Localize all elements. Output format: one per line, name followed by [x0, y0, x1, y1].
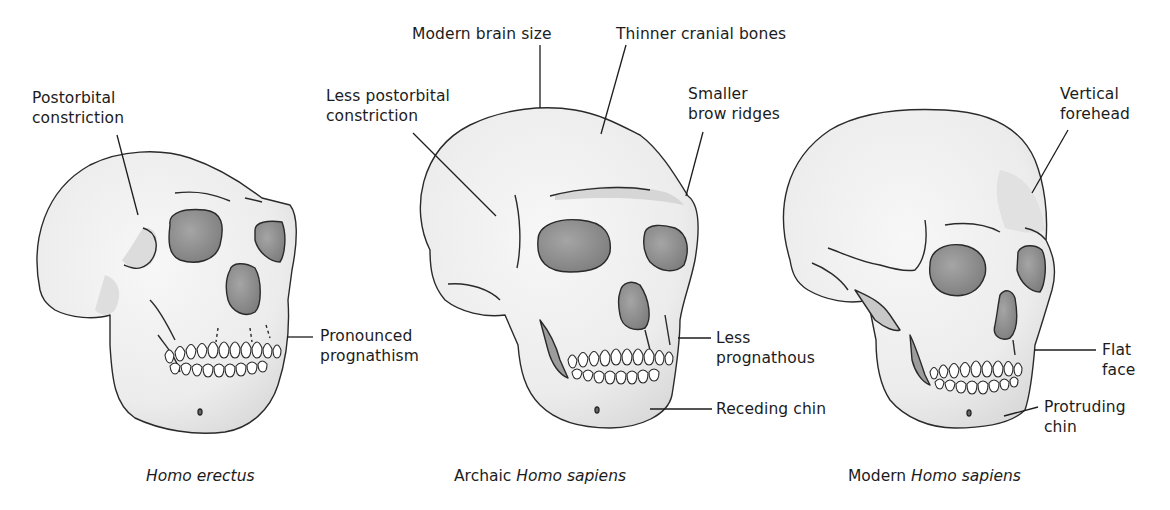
skull-archaic-homo-sapiens: [420, 108, 698, 428]
label-flat-face: Flat face: [1102, 340, 1135, 380]
label-less-prognathous: Less prognathous: [716, 328, 815, 368]
label-smaller-brow-ridges: Smaller brow ridges: [688, 84, 780, 124]
label-postorbital-constriction: Postorbital constriction: [32, 88, 124, 128]
skull-modern-homo-sapiens: [783, 110, 1054, 428]
label-pronounced-prognathism: Pronounced prognathism: [320, 326, 419, 366]
label-modern-brain-size: Modern brain size: [412, 24, 552, 44]
skull-illustrations: [0, 0, 1170, 510]
label-less-postorbital-constriction: Less postorbital constriction: [326, 86, 450, 126]
label-vertical-forehead: Vertical forehead: [1060, 84, 1130, 124]
caption-homo-erectus: Homo erectus: [146, 466, 255, 486]
label-thinner-cranial-bones: Thinner cranial bones: [616, 24, 786, 44]
caption-archaic-homo-sapiens: Archaic Homo sapiens: [454, 466, 626, 486]
label-receding-chin: Receding chin: [716, 399, 826, 419]
skull-comparison-figure: Postorbital constriction Pronounced prog…: [0, 0, 1170, 510]
caption-modern-homo-sapiens: Modern Homo sapiens: [848, 466, 1021, 486]
label-protruding-chin: Protruding chin: [1044, 397, 1126, 437]
skull-homo-erectus: [37, 152, 296, 433]
